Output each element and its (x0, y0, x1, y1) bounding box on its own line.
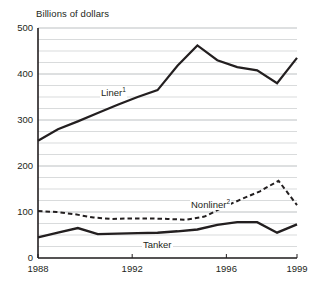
series-line-liner (38, 45, 297, 140)
nonliner-label: Nonliner2 (190, 200, 231, 210)
nonliner-label-footnote-marker: 2 (226, 198, 230, 205)
x-tick-label: 1988 (27, 264, 48, 274)
x-tick-label: 1999 (286, 264, 307, 274)
x-tick-label: 1996 (216, 264, 237, 274)
liner-label-footnote-marker: 1 (122, 86, 126, 93)
tanker-label: Tanker (142, 240, 173, 250)
liner-label: Liner1 (100, 88, 127, 98)
x-tick-label: 1992 (122, 264, 143, 274)
x-axis-tick-labels: 1988199219961999 (0, 264, 311, 280)
chart-container: Billions of dollars 5004003002001000 198… (0, 0, 311, 291)
grid-lines-major (38, 28, 297, 212)
